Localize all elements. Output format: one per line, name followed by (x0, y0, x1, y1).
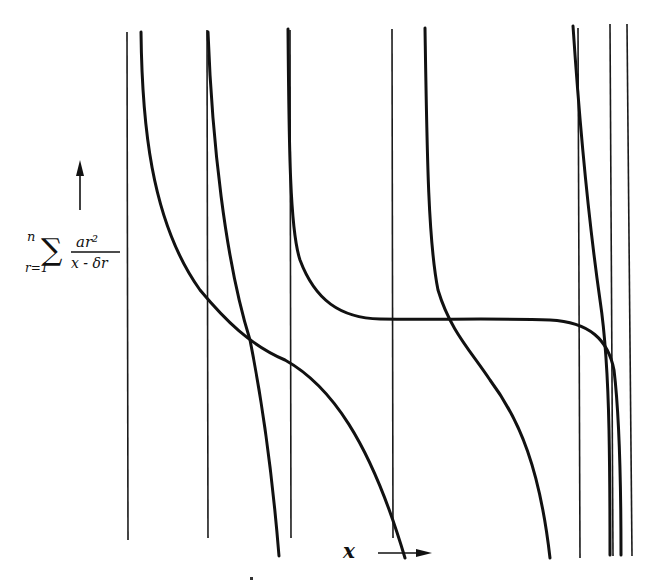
asymptote-7 (627, 24, 632, 556)
x-symbol: x (342, 539, 356, 563)
branch-4 (425, 28, 550, 558)
branch-2 (208, 32, 279, 556)
y-axis-label: n ∑ r=1 ar² x - δr (25, 229, 120, 275)
function-branches (141, 26, 621, 558)
x-arrow-icon (416, 549, 432, 557)
sum-lower-limit: r=1 (25, 261, 48, 275)
branch-1 (141, 32, 405, 558)
fraction-denominator: x - δr (71, 255, 109, 271)
asymptote-2 (207, 30, 208, 538)
sum-upper-limit: n (27, 229, 35, 244)
y-axis-arrow-icon (76, 160, 84, 210)
x-axis-label: x (342, 539, 432, 563)
stray-mark (250, 577, 253, 580)
asymptote-1 (127, 32, 128, 540)
secular-equation-diagram: n ∑ r=1 ar² x - δr x (0, 0, 661, 582)
fraction-numerator: ar² (76, 233, 98, 251)
branch-3 (288, 29, 621, 555)
asymptote-4 (392, 29, 393, 538)
